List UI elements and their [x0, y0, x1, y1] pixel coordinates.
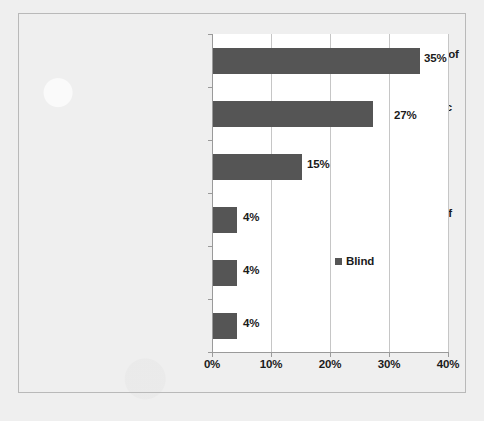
- x-axis-label-10: 10%: [260, 358, 282, 370]
- y-axis-tick-4: [208, 246, 212, 247]
- legend-label-blind: Blind: [346, 255, 374, 267]
- legend[interactable]: Blind: [335, 255, 374, 267]
- x-axis-tick-20: [330, 353, 331, 357]
- bar-5[interactable]: [213, 313, 237, 339]
- y-axis-tick-1: [208, 87, 212, 88]
- y-axis-tick-0: [208, 34, 212, 35]
- bar-2[interactable]: [213, 154, 302, 180]
- y-axis-tick-3: [208, 193, 212, 194]
- bar-1[interactable]: [213, 101, 373, 127]
- bar-value-2: 15%: [307, 158, 329, 170]
- x-axis-label-20: 20%: [319, 358, 341, 370]
- x-axis-tick-0: [212, 353, 213, 357]
- bar-value-5: 4%: [243, 317, 259, 329]
- bar-value-1: 27%: [394, 109, 416, 121]
- x-axis-label-30: 30%: [378, 358, 400, 370]
- x-axis-tick-30: [389, 353, 390, 357]
- gridline-10: [271, 34, 272, 353]
- chart-figure: To distinguish some elements of the text…: [0, 0, 484, 421]
- legend-swatch-blind-icon: [335, 258, 342, 265]
- y-axis-tick-5: [208, 299, 212, 300]
- y-axis-line: [212, 34, 213, 353]
- x-axis-label-40: 40%: [437, 358, 459, 370]
- plot-area: 35% 27% 15% 4% 4% 4% Blind: [212, 34, 449, 353]
- y-axis-tick-2: [208, 140, 212, 141]
- gridline-40: [448, 34, 449, 353]
- bar-3[interactable]: [213, 207, 237, 233]
- gridline-20: [330, 34, 331, 353]
- x-axis-tick-10: [271, 353, 272, 357]
- bar-0[interactable]: [213, 48, 420, 74]
- x-axis-tick-40: [448, 353, 449, 357]
- bar-value-4: 4%: [243, 264, 259, 276]
- bar-value-3: 4%: [243, 211, 259, 223]
- gridline-30: [389, 34, 390, 353]
- chart-border: To distinguish some elements of the text…: [18, 13, 466, 393]
- bar-4[interactable]: [213, 260, 237, 286]
- bar-value-0: 35%: [424, 52, 446, 64]
- x-axis-label-0: 0%: [204, 358, 220, 370]
